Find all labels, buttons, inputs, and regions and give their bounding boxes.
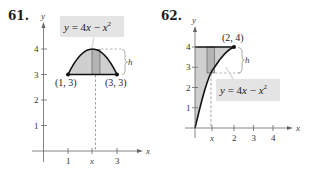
point-1-3 xyxy=(66,73,70,77)
y-axis-label-62: y xyxy=(191,15,196,25)
label-pointer-61 xyxy=(92,37,94,48)
y-tick-2: 2 xyxy=(186,83,191,93)
graph-62: 62. y x 1 2 3 4 xyxy=(161,9,300,143)
y-axis-label-61: y xyxy=(40,11,45,21)
equation-label-62: y = 4x − x2 xyxy=(219,83,268,96)
point-3-3 xyxy=(115,73,119,77)
x-tick-1: 1 xyxy=(66,156,71,166)
y-tick-3: 3 xyxy=(34,70,39,80)
y-tick-2: 2 xyxy=(34,95,39,105)
y-tick-4: 4 xyxy=(34,44,39,54)
y-tick-1: 1 xyxy=(186,103,191,113)
point-label-1-3: (1, 3) xyxy=(55,77,77,89)
label-pointer-62 xyxy=(226,67,233,79)
equation-label-61: y = 4x − x2 xyxy=(63,20,112,33)
x-axis-arrow-icon xyxy=(287,126,293,130)
x-axis-arrow-icon xyxy=(137,149,143,153)
y-tick-3: 3 xyxy=(186,62,191,72)
h-brace-61 xyxy=(122,50,128,75)
y-tick-4: 4 xyxy=(186,42,191,52)
x-axis-label-62: x xyxy=(295,123,300,133)
x-axis-label-61: x xyxy=(145,146,150,156)
representative-rectangle-61 xyxy=(92,50,100,75)
y-axis-arrow-icon xyxy=(42,22,46,28)
x-tick-3: 3 xyxy=(252,133,257,143)
h-brace-62 xyxy=(238,48,245,74)
x-tick-x: x xyxy=(209,133,214,143)
figure-canvas: 61. y x 1 2 3 4 xyxy=(0,0,314,170)
problem-number-62: 62. xyxy=(161,9,182,23)
height-label-61: h xyxy=(128,57,133,67)
x-tick-4: 4 xyxy=(271,133,276,143)
point-2-4 xyxy=(232,45,236,49)
graph-61: 61. y x 1 2 3 4 xyxy=(8,9,150,166)
y-axis-arrow-icon xyxy=(193,26,197,32)
point-label-2-4: (2, 4) xyxy=(222,32,244,44)
y-tick-1: 1 xyxy=(34,121,39,131)
x-tick-3: 3 xyxy=(115,156,120,166)
problem-number-61: 61. xyxy=(8,9,29,23)
x-tick-x: x xyxy=(89,156,94,166)
x-tick-2: 2 xyxy=(232,133,237,143)
height-label-62: h xyxy=(245,55,250,65)
point-label-3-3: (3, 3) xyxy=(105,77,127,89)
y-ticks-61 xyxy=(41,49,47,126)
